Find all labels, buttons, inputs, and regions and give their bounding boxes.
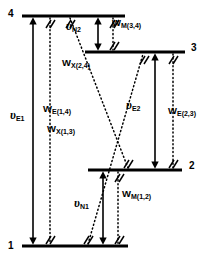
nu-n1-head-up bbox=[99, 171, 106, 178]
w-x-2-4-symbol: W bbox=[62, 57, 71, 68]
w-m-3-4-symbol: W bbox=[112, 17, 121, 28]
w-e-1-4-label: WE(1,4) bbox=[43, 104, 71, 115]
w-x-2-4-subscript: X(2,4) bbox=[71, 62, 90, 69]
w-e-2-3-label: WE(2,3) bbox=[168, 106, 196, 117]
nu-e2-symbol: υ bbox=[126, 98, 132, 112]
level-3-number: 3 bbox=[191, 43, 197, 53]
w-m-3-4-subscript: M(3,4) bbox=[121, 22, 141, 29]
nu-e2-subscript: E2 bbox=[132, 105, 141, 112]
w-x-1-3-subscript: X(1,3) bbox=[56, 128, 75, 135]
w-x-1-3-line bbox=[88, 54, 143, 244]
w-m-3-4-label: WM(3,4) bbox=[112, 18, 141, 29]
w-x-2-4-label: WX(2,4) bbox=[62, 58, 90, 69]
level-1-number: 1 bbox=[8, 241, 14, 251]
nu-n2-symbol: υ bbox=[66, 19, 72, 33]
nu-n2-head-up bbox=[94, 17, 101, 24]
w-x-1-3-label: WX(1,3) bbox=[47, 124, 75, 135]
w-m-1-2-label: WM(1,2) bbox=[122, 189, 151, 200]
nu-e1-label: υE1 bbox=[10, 110, 24, 122]
w-x-2-4-line bbox=[70, 18, 128, 168]
energy-level-diagram: 4 3 2 1 υE1 WE(1,4) υN2 WM(3,4) υE2 WE(2… bbox=[0, 0, 211, 259]
w-e-2-3-symbol: W bbox=[168, 105, 177, 116]
w-m-1-2-symbol: W bbox=[122, 188, 131, 199]
level-4-number: 4 bbox=[8, 9, 14, 19]
nu-e2-label: υE2 bbox=[126, 100, 140, 112]
nu-e2-head-down bbox=[151, 162, 158, 169]
w-e-2-3-subscript: E(2,3) bbox=[177, 110, 196, 117]
w-m-1-2-subscript: M(1,2) bbox=[131, 193, 151, 200]
w-e-1-4-subscript: E(1,4) bbox=[52, 108, 71, 115]
nu-e1-symbol: υ bbox=[10, 108, 16, 122]
w-e-1-4-symbol: W bbox=[43, 103, 52, 114]
nu-n1-label: υN1 bbox=[74, 198, 89, 210]
nu-e1-head-up bbox=[29, 17, 36, 24]
nu-n1-symbol: υ bbox=[74, 196, 80, 210]
nu-e1-head-down bbox=[29, 238, 36, 245]
level-2-number: 2 bbox=[189, 161, 195, 171]
nu-n1-head-down bbox=[99, 238, 106, 245]
nu-n2-subscript: N2 bbox=[72, 26, 81, 33]
nu-n1-subscript: N1 bbox=[80, 203, 89, 210]
nu-e2-head-up bbox=[151, 53, 158, 60]
nu-n2-label: υN2 bbox=[66, 21, 81, 33]
nu-e1-subscript: E1 bbox=[16, 115, 25, 122]
diagram-canvas bbox=[0, 0, 211, 259]
nu-n2-head-down bbox=[94, 44, 101, 51]
w-x-1-3-symbol: W bbox=[47, 123, 56, 134]
